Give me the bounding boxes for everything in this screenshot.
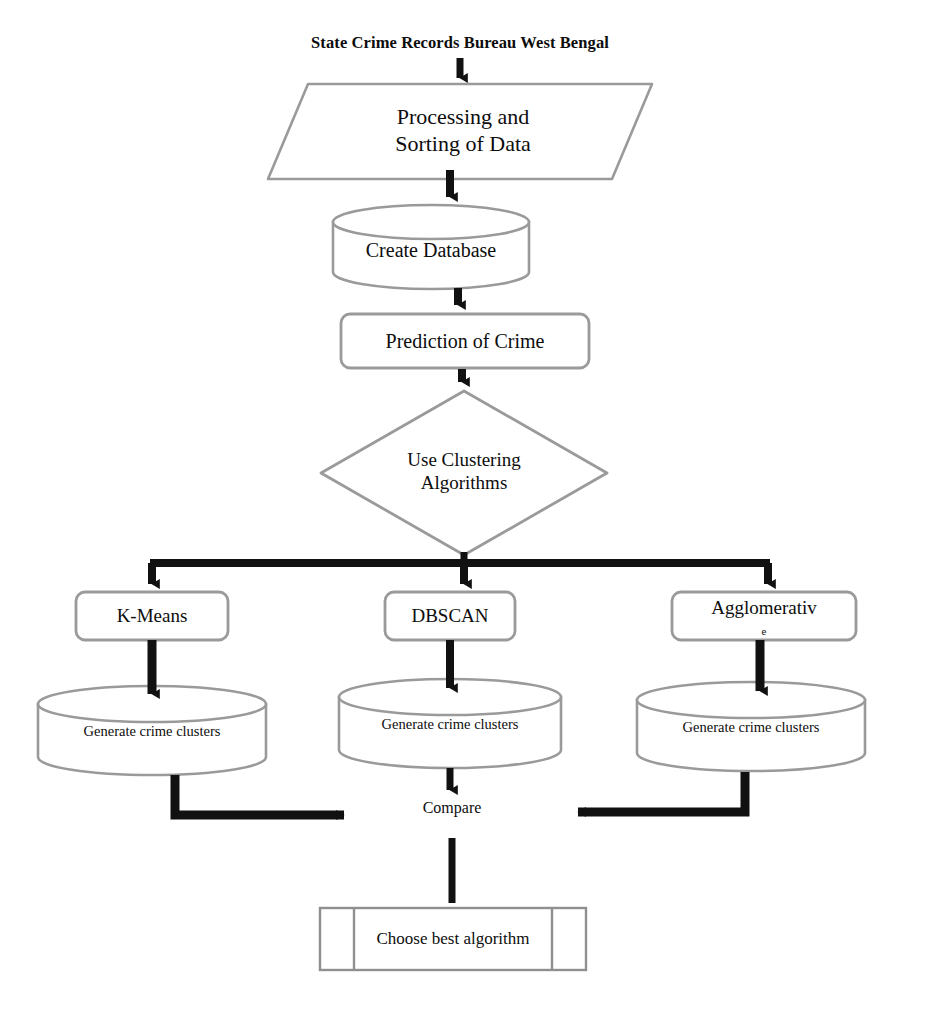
shape-clusters-agglomerative-cylinder <box>637 682 865 771</box>
flowchart-shapes-and-connectors <box>0 0 926 1013</box>
flowchart-diagram: State Crime Records Bureau West Bengal P… <box>0 0 926 1013</box>
shape-processing-parallelogram <box>268 84 652 179</box>
shape-prediction-rect <box>341 314 589 368</box>
shape-agglomerative-rect <box>672 592 856 640</box>
shape-kmeans-rect <box>76 592 228 640</box>
shape-clusters-dbscan-cylinder <box>339 679 561 768</box>
connector-agglomerative-clusters-to-compare <box>578 772 745 812</box>
shape-choose-best-predefined-process <box>320 908 586 970</box>
shape-create-database-cylinder <box>333 205 529 289</box>
connector-kmeans-clusters-to-compare <box>175 775 344 815</box>
shape-clusters-kmeans-cylinder <box>38 686 266 775</box>
shape-dbscan-rect <box>385 592 515 640</box>
shape-clustering-diamond <box>321 391 607 555</box>
